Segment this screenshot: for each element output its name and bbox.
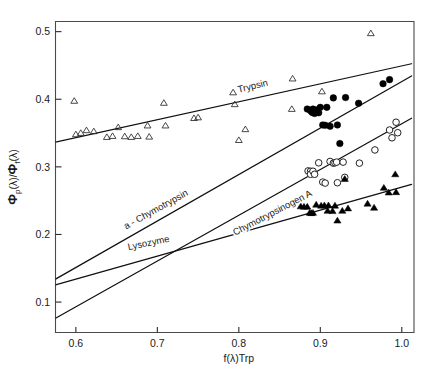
data-point-open-circle (340, 159, 347, 166)
data-point-filled-circle (327, 123, 334, 130)
plot-area: TrypsinTrypsina - Chymotrypsina - Chymot… (56, 30, 412, 318)
data-point-filled-circle (342, 94, 349, 101)
data-point-open-triangle (146, 134, 153, 140)
x-tick-label: 0.9 (313, 337, 328, 349)
data-point-filled-circle (355, 100, 362, 107)
data-point-open-circle (394, 129, 401, 136)
data-point-open-triangle (242, 126, 249, 132)
data-point-open-triangle (121, 133, 128, 139)
series-label-a-chymotrypsin: a - Chymotrypsina - Chymotrypsin (122, 187, 190, 231)
data-point-open-triangle (128, 134, 135, 140)
data-point-open-circle (311, 171, 318, 178)
data-point-open-circle (372, 147, 379, 154)
data-point-filled-triangle (370, 204, 377, 210)
data-point-filled-circle (380, 80, 387, 87)
series-label-text: Trypsin (236, 77, 269, 95)
series-label-lysozyme: LysozymeLysozyme (127, 233, 171, 253)
y-tick-label: 0.4 (35, 93, 50, 105)
series-label-text: a - Chymotrypsin (122, 187, 190, 231)
data-point-open-circle (386, 127, 393, 134)
data-point-open-triangle (144, 122, 151, 128)
scatter-plot: 0.60.70.80.91.00.10.20.30.40.5f(λ)TrpΦp(… (0, 0, 433, 371)
y-axis-title: Φp(λ)/Φf(λ) (5, 149, 22, 204)
data-point-filled-circle (337, 140, 344, 147)
data-point-filled-triangle (334, 217, 341, 223)
data-point-open-circle (315, 160, 322, 167)
fit-line-chymotrypsinogen-a (56, 118, 412, 318)
data-point-open-triangle (289, 75, 296, 81)
data-point-filled-triangle (392, 171, 399, 177)
data-point-filled-circle (386, 76, 393, 83)
data-point-filled-triangle (380, 184, 387, 190)
data-point-open-triangle (109, 133, 116, 139)
data-point-open-circle (356, 160, 363, 167)
data-point-open-triangle (162, 122, 169, 128)
data-point-filled-circle (334, 122, 341, 129)
data-point-open-circle (389, 134, 396, 141)
y-axis-title-text: Φp(λ)/Φf(λ) (5, 149, 22, 204)
data-point-open-circle (333, 159, 340, 166)
figure-container: 0.60.70.80.91.00.10.20.30.40.5f(λ)TrpΦp(… (0, 0, 433, 371)
x-axis-title: f(λ)Trp (224, 352, 255, 364)
x-tick-label: 0.7 (150, 337, 165, 349)
data-point-open-triangle (288, 106, 295, 112)
data-point-open-triangle (90, 128, 97, 134)
data-point-filled-circle (324, 104, 331, 111)
data-point-open-triangle (71, 98, 78, 104)
data-point-open-triangle (319, 88, 326, 94)
x-tick-label: 1.0 (394, 337, 409, 349)
data-point-open-circle (322, 180, 329, 187)
y-tick-label: 0.3 (35, 161, 50, 173)
data-point-filled-triangle (329, 208, 336, 214)
data-point-open-triangle (235, 137, 242, 143)
y-tick-label: 0.5 (35, 25, 50, 37)
data-point-open-triangle (160, 100, 167, 106)
data-point-open-triangle (83, 127, 90, 133)
data-point-filled-triangle (344, 205, 351, 211)
data-point-open-circle (393, 119, 400, 126)
data-point-filled-circle (317, 104, 324, 111)
data-point-filled-triangle (364, 200, 371, 206)
y-tick-label: 0.1 (35, 296, 50, 308)
data-point-open-triangle (230, 89, 237, 95)
x-tick-label: 0.6 (69, 337, 84, 349)
data-point-open-circle (334, 179, 341, 186)
data-point-open-triangle (367, 30, 374, 36)
series-label-trypsin: TrypsinTrypsin (236, 77, 269, 95)
y-tick-label: 0.2 (35, 228, 50, 240)
data-point-filled-circle (330, 95, 337, 102)
series-label-text: Lysozyme (127, 233, 171, 253)
data-point-open-triangle (134, 133, 141, 139)
x-tick-label: 0.8 (232, 337, 247, 349)
